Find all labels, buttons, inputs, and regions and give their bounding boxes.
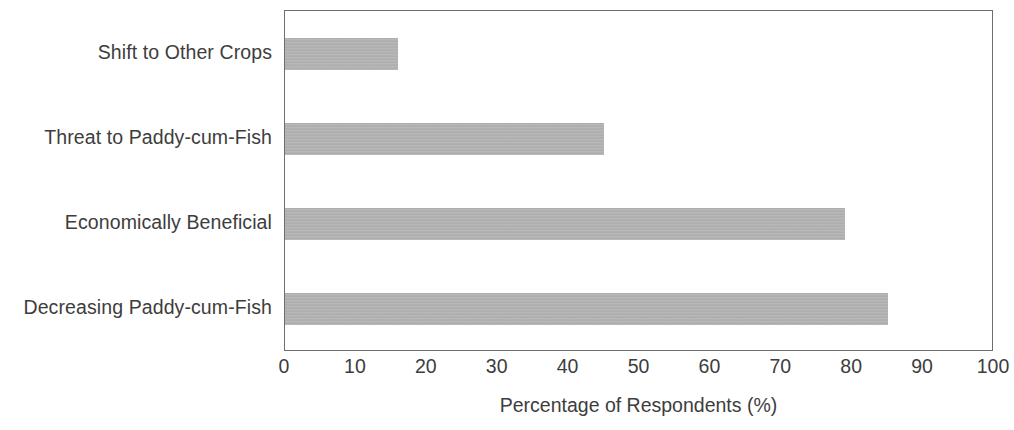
category-label: Decreasing Paddy-cum-Fish	[0, 298, 272, 318]
bar	[285, 208, 845, 240]
x-tick-label: 100	[977, 357, 1010, 377]
x-tick-label: 0	[279, 357, 290, 377]
x-tick-label: 80	[840, 357, 862, 377]
x-tick-label: 90	[911, 357, 933, 377]
category-axis-labels: Shift to Other Crops Threat to Paddy-cum…	[0, 10, 272, 351]
x-tick-label: 10	[344, 357, 366, 377]
category-label: Threat to Paddy-cum-Fish	[0, 128, 272, 148]
x-tick-label: 60	[699, 357, 721, 377]
x-tick-label: 20	[415, 357, 437, 377]
x-axis-title: Percentage of Respondents (%)	[284, 396, 993, 416]
x-tick-label: 40	[557, 357, 579, 377]
category-label: Shift to Other Crops	[0, 43, 272, 63]
plot-area	[284, 10, 993, 351]
bars-container	[285, 11, 992, 350]
x-axis-ticks: 0 10 20 30 40 50 60 70 80 90 100	[284, 357, 993, 385]
bar	[285, 293, 888, 325]
bar-chart: Shift to Other Crops Threat to Paddy-cum…	[0, 0, 1014, 430]
x-tick-label: 50	[628, 357, 650, 377]
x-tick-label: 30	[486, 357, 508, 377]
category-label: Economically Beneficial	[0, 213, 272, 233]
bar	[285, 123, 604, 155]
x-tick-label: 70	[769, 357, 791, 377]
bar	[285, 38, 398, 70]
